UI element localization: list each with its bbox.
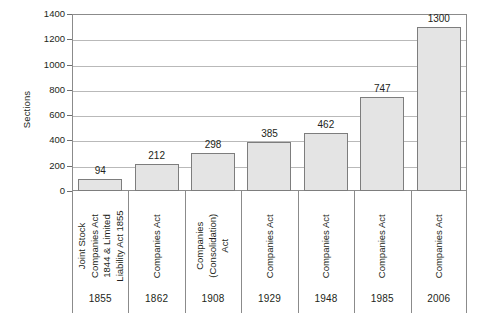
x-axis-act-name-text: Companies Act: [320, 214, 333, 278]
x-axis-label-table: Joint StockCompanies Act1844 & LimitedLi…: [72, 191, 467, 313]
x-axis-year-label: 1985: [371, 293, 394, 313]
x-axis-category-cell: Companies Act1985: [354, 191, 410, 313]
bar-cell: 94: [72, 14, 128, 191]
x-axis-act-name-text: Joint StockCompanies Act1844 & LimitedLi…: [75, 210, 125, 281]
y-tick-label: 0: [0, 185, 72, 197]
bar[interactable]: 212: [135, 164, 179, 191]
x-axis-act-name: Companies Act: [354, 191, 410, 293]
x-axis-act-name: Companies Act: [128, 191, 184, 293]
x-axis-divider: [298, 191, 299, 313]
bar-value-label: 385: [261, 128, 278, 139]
bar-value-label: 94: [95, 165, 106, 176]
bar-cell: 298: [185, 14, 241, 191]
bar[interactable]: 1300: [417, 27, 461, 191]
x-axis-year-label: 1855: [89, 293, 112, 313]
x-axis-year-label: 1908: [202, 293, 225, 313]
x-axis-year-label: 1929: [258, 293, 281, 313]
y-tick-label: 400: [0, 134, 72, 146]
bar-cell: 747: [354, 14, 410, 191]
y-tick-label: 200: [0, 160, 72, 172]
x-axis-act-name-text: Companies Act: [150, 214, 163, 278]
bar-value-label: 462: [318, 119, 335, 130]
x-axis-act-name: Companies Act: [298, 191, 354, 293]
x-axis-act-name: Companies Act: [241, 191, 297, 293]
x-axis-category-cell: Companies Act1948: [298, 191, 354, 313]
x-axis-divider: [72, 191, 73, 313]
x-axis-act-name-text: Companies Act: [433, 214, 446, 278]
x-axis-act-name: Companies(Consolidation)Act: [185, 191, 241, 293]
x-axis-year-label: 1948: [314, 293, 337, 313]
bar-series: 942122983854627471300: [72, 14, 467, 191]
bar-chart: Sections 0200400600800100012001400 94212…: [0, 0, 481, 313]
x-axis-divider: [411, 191, 412, 313]
y-tick-label: 1200: [0, 33, 72, 45]
y-tick-label: 1000: [0, 59, 72, 71]
x-axis-divider: [241, 191, 242, 313]
bar-cell: 1300: [411, 14, 467, 191]
x-axis-divider: [466, 191, 467, 313]
x-axis-act-name: Companies Act: [411, 191, 467, 293]
y-tick-label: 600: [0, 109, 72, 121]
x-axis-category-cell: Companies(Consolidation)Act1908: [185, 191, 241, 313]
x-axis-category-cell: Joint StockCompanies Act1844 & LimitedLi…: [72, 191, 128, 313]
x-axis-act-name-text: Companies Act: [376, 214, 389, 278]
bar-value-label: 1300: [428, 13, 450, 24]
bar-cell: 462: [298, 14, 354, 191]
x-axis-year-label: 1862: [145, 293, 168, 313]
x-axis-act-name: Joint StockCompanies Act1844 & LimitedLi…: [72, 191, 128, 293]
x-axis-category-cell: Companies Act1862: [128, 191, 184, 313]
bar[interactable]: 462: [304, 133, 348, 191]
bar-cell: 212: [128, 14, 184, 191]
x-axis-category-cell: Companies Act2006: [411, 191, 467, 313]
bar-value-label: 212: [148, 150, 165, 161]
bar[interactable]: 298: [191, 153, 235, 191]
bar[interactable]: 747: [360, 97, 404, 191]
x-axis-divider: [128, 191, 129, 313]
bar-value-label: 747: [374, 83, 391, 94]
bar-value-label: 298: [205, 139, 222, 150]
x-axis-year-label: 2006: [427, 293, 450, 313]
y-tick-label: 800: [0, 84, 72, 96]
bar[interactable]: 385: [247, 142, 291, 191]
bar[interactable]: 94: [78, 179, 122, 191]
x-axis-act-name-text: Companies Act: [263, 214, 276, 278]
x-axis-divider: [354, 191, 355, 313]
x-axis-divider: [185, 191, 186, 313]
x-axis-category-cell: Companies Act1929: [241, 191, 297, 313]
x-axis-act-name-text: Companies(Consolidation)Act: [194, 214, 232, 278]
bar-cell: 385: [241, 14, 297, 191]
y-tick-label: 1400: [0, 8, 72, 20]
